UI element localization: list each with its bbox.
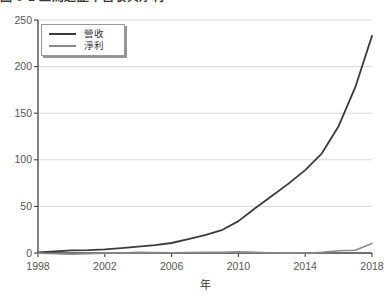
x-axis-title: 年 (200, 278, 211, 291)
x-tick-label: 2014 (294, 260, 318, 272)
x-tick-label: 2002 (93, 260, 117, 272)
y-tick-label: 150 (14, 107, 32, 119)
legend-item-revenue: 營收 (49, 29, 104, 39)
legend-line-swatch (49, 45, 76, 47)
y-tick-label: 200 (14, 60, 32, 72)
x-tick-label: 2010 (227, 260, 251, 272)
x-tick-label: 2006 (160, 260, 184, 272)
x-tick-label: 1998 (26, 260, 50, 272)
legend-item-label: 營收 (84, 29, 104, 39)
legend-line-swatch (49, 33, 76, 35)
legend-item-net-profit: 淨利 (49, 41, 104, 51)
y-tick-label: 50 (20, 200, 32, 212)
legend: 營收淨利 (41, 24, 125, 56)
y-tick-label: 0 (26, 247, 32, 259)
y-tick-label: 250 (14, 14, 32, 26)
y-tick-label: 100 (14, 153, 32, 165)
x-tick-label: 2018 (360, 260, 384, 272)
revenue-line (38, 36, 372, 253)
legend-item-label: 淨利 (84, 41, 104, 51)
